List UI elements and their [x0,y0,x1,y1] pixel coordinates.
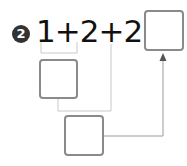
intermediate-sum-box[interactable] [39,59,78,99]
result-line [104,60,163,136]
second-step-box[interactable] [64,115,104,156]
arrow-up-icon [160,53,167,61]
answer-box[interactable] [144,10,184,51]
problem-number-badge: 2 [12,25,30,43]
